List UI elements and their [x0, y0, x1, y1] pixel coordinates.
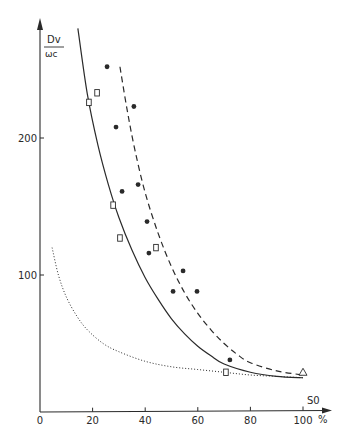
x-axis-line: [40, 411, 328, 413]
data-point-circle: [146, 251, 151, 256]
x-tick-label: 100: [293, 415, 312, 426]
data-point-circle: [227, 358, 232, 363]
data-point-square: [118, 235, 123, 241]
data-point-square: [87, 99, 92, 105]
x-tick-label: 40: [139, 415, 152, 426]
y-axis-label-denominator: ωc: [45, 49, 58, 59]
x-tick-label: 80: [244, 415, 257, 426]
x-axis-label: S0: [307, 395, 320, 406]
x-tick-label: 0: [37, 415, 43, 426]
data-point-circle: [136, 182, 141, 187]
y-axis-arrow-icon: [37, 18, 43, 30]
data-point-circle: [120, 189, 125, 194]
data-point-square: [95, 90, 100, 96]
dotted-curve: [52, 248, 303, 378]
y-tick-label: 100: [18, 270, 37, 281]
data-point-circle: [195, 289, 200, 294]
axes: 020406080100100200: [18, 18, 332, 426]
chart-plot: 020406080100100200 Dv ωc S0 %: [0, 0, 345, 444]
data-point-square: [111, 202, 116, 208]
data-point-circle: [145, 219, 150, 224]
x-axis-unit: %: [318, 414, 328, 425]
data-point-circle: [171, 289, 176, 294]
chart-container: 020406080100100200 Dv ωc S0 %: [0, 0, 345, 444]
data-point-circle: [131, 104, 136, 109]
data-point-circle: [181, 268, 186, 273]
x-tick-label: 20: [86, 415, 99, 426]
y-axis-label-numerator: Dv: [47, 34, 61, 45]
y-tick-label: 200: [18, 133, 37, 144]
curves: [52, 28, 303, 377]
data-point-circle: [114, 125, 119, 130]
data-point-circle: [105, 64, 110, 69]
x-tick-label: 60: [191, 415, 204, 426]
data-point-square: [154, 244, 159, 250]
data-point-square: [224, 369, 229, 375]
x-axis-arrow-icon: [322, 408, 332, 414]
data-point-triangle: [299, 368, 307, 375]
